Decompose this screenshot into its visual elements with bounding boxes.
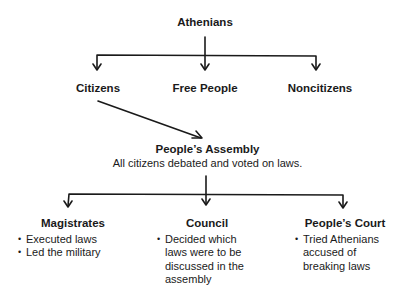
root-node-athenians: Athenians: [155, 16, 255, 28]
branch-magistrates: Magistrates Executed laws Led the milita…: [18, 217, 128, 260]
branch-peoples-court: People’s Court Tried Athenians accused o…: [295, 217, 395, 273]
group-node-free-people: Free People: [155, 82, 255, 94]
bullet-item: Decided which laws were to be discussed …: [157, 233, 257, 287]
bullet-item: Led the military: [18, 246, 128, 260]
assembly-node-title: People’s Assembly: [130, 143, 285, 155]
branch-title: People’s Court: [295, 217, 395, 231]
branch-council: Council Decided which laws were to be di…: [157, 217, 257, 287]
group-node-citizens: Citizens: [58, 82, 138, 94]
bullet-item: Executed laws: [18, 233, 128, 247]
citizens-to-assembly-arrow: [98, 101, 201, 138]
group-node-noncitizens: Noncitizens: [270, 82, 370, 94]
bullet-item: Tried Athenians accused of breaking laws: [295, 233, 395, 274]
branch-title: Council: [157, 217, 257, 231]
assembly-node-description: All citizens debated and voted on laws.: [90, 157, 325, 169]
branch-title: Magistrates: [18, 217, 128, 231]
